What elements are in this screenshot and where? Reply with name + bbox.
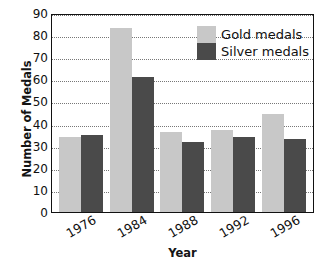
legend-item-gold[interactable]: Gold medals xyxy=(197,26,309,43)
x-axis-tick-labels: 19761984198819921996 xyxy=(51,213,314,245)
y-axis-tick-label: 70 xyxy=(22,52,48,64)
x-axis-tick-label: 1992 xyxy=(216,212,251,241)
bar-silver-medals-1984[interactable] xyxy=(132,77,154,212)
y-axis-tick-label: 80 xyxy=(22,30,48,42)
y-axis-tick-labels: 0102030405060708090 xyxy=(22,14,48,213)
x-axis-title: Year xyxy=(51,246,314,260)
x-axis-tick-label: 1984 xyxy=(114,212,149,241)
legend-swatch-gold-icon xyxy=(197,26,216,43)
x-axis-tick-label: 1988 xyxy=(165,212,200,241)
y-axis-tick-label: 10 xyxy=(22,185,48,197)
legend-swatch-silver-icon xyxy=(197,43,216,60)
bar-gold-medals-1996[interactable] xyxy=(262,114,284,212)
bar-group xyxy=(59,15,103,212)
bar-silver-medals-1992[interactable] xyxy=(233,137,255,212)
bar-silver-medals-1988[interactable] xyxy=(182,142,204,212)
y-axis-tick-label: 40 xyxy=(22,119,48,131)
bar-gold-medals-1988[interactable] xyxy=(160,132,182,212)
legend-item-silver[interactable]: Silver medals xyxy=(197,43,309,60)
bar-gold-medals-1976[interactable] xyxy=(59,137,81,212)
bar-silver-medals-1976[interactable] xyxy=(81,135,103,212)
x-axis-tick-label: 1976 xyxy=(63,212,98,241)
y-axis-tick-label: 0 xyxy=(22,207,48,219)
bar-gold-medals-1992[interactable] xyxy=(211,130,233,212)
y-axis-tick-label: 90 xyxy=(22,8,48,20)
bar-group xyxy=(110,15,154,212)
y-axis-tick-label: 50 xyxy=(22,96,48,108)
y-axis-tick-label: 30 xyxy=(22,141,48,153)
chart-legend: Gold medals Silver medals xyxy=(197,26,309,60)
bar-silver-medals-1996[interactable] xyxy=(284,139,306,212)
bar-chart-figure: Number of Medals 0102030405060708090 Gol… xyxy=(0,0,323,270)
plot-area: Gold medals Silver medals xyxy=(51,14,314,213)
bar-gold-medals-1984[interactable] xyxy=(110,28,132,212)
legend-label-gold: Gold medals xyxy=(221,28,302,41)
legend-label-silver: Silver medals xyxy=(221,45,309,58)
y-axis-tick-label: 20 xyxy=(22,163,48,175)
y-axis-tick-label: 60 xyxy=(22,74,48,86)
x-axis-tick-label: 1996 xyxy=(267,212,302,241)
